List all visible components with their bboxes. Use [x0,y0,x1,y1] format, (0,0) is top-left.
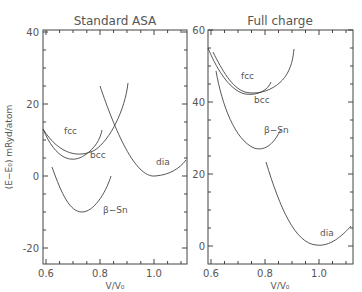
left-plot-frame [43,30,187,264]
right-xtick-0.6: 0.6 [203,268,219,279]
right-panel: Full charge 60 40 20 0 0.6 0. [192,14,353,291]
left-ytick-40: 40 [26,27,39,38]
left-xtick-1.0: 1.0 [146,268,162,279]
right-curve-bcc [208,48,271,94]
right-curve-dia [266,162,351,245]
right-ytick-40: 40 [192,97,205,108]
left-panel: Standard ASA 40 20 0 -20 0.6 [4,14,187,291]
right-label-bcc: bcc [254,95,270,105]
figure: Standard ASA 40 20 0 -20 0.6 [0,0,362,292]
left-title: Standard ASA [74,14,157,28]
left-ytick-minus20: -20 [23,243,39,254]
left-xlabel: V/V₀ [106,281,125,291]
left-label-fcc: fcc [64,126,77,136]
right-curve-bsn [216,71,281,149]
left-ytick-20: 20 [26,99,39,110]
left-xtick-0.8: 0.8 [92,268,108,279]
left-label-bsn: β−Sn [103,205,128,215]
left-curve-dia [100,86,186,176]
left-ylabel: (E−E₀) mRyd/atom [4,105,14,189]
left-xtick-0.6: 0.6 [38,268,54,279]
left-curves [43,83,186,212]
right-xlabel: V/V₀ [271,281,290,291]
right-label-bsn: β−Sn [264,125,289,135]
right-xtick-1.0: 1.0 [311,268,327,279]
right-label-dia: dia [320,228,334,238]
right-y-ticks [208,30,353,246]
left-y-ticks [43,32,187,248]
right-label-fcc: fcc [241,71,254,81]
left-ytick-0: 0 [33,171,39,182]
right-xtick-0.8: 0.8 [257,268,273,279]
right-ytick-60: 60 [192,25,205,36]
right-curves [208,48,351,245]
left-label-bcc: bcc [90,150,106,160]
right-title: Full charge [247,14,313,28]
left-label-dia: dia [156,157,170,167]
left-x-ticks [46,30,181,264]
left-curve-fcc [43,83,128,154]
right-ytick-20: 20 [192,169,205,180]
right-ytick-0: 0 [199,241,205,252]
